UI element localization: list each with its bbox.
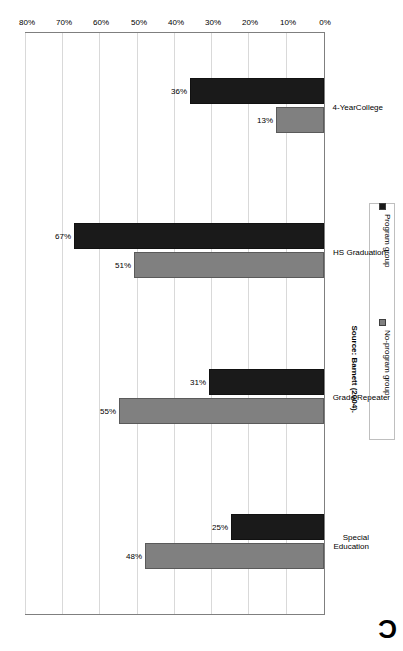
tick-label: 50% <box>131 18 147 27</box>
bar-row: 48% <box>26 543 324 569</box>
bar-value-label: 31% <box>190 377 206 386</box>
value-axis-ticks: 0%10%20%30%40%50%60%70%80% <box>25 13 325 29</box>
bar <box>134 252 324 278</box>
bar-row: 36% <box>26 78 324 104</box>
figure-rotation-wrapper: C No-program groupProgram group Source: … <box>0 0 403 651</box>
bar <box>276 107 324 133</box>
tick-label: 60% <box>93 18 109 27</box>
category-label: HS Graduation <box>333 247 386 256</box>
bar-value-label: 67% <box>55 232 71 241</box>
bar <box>231 514 324 540</box>
bar <box>209 369 324 395</box>
bar <box>119 398 324 424</box>
category-label: Grade Repeater <box>333 393 390 402</box>
tick-label: 70% <box>56 18 72 27</box>
bar <box>74 223 324 249</box>
bar-value-label: 51% <box>115 261 131 270</box>
bar <box>190 78 324 104</box>
bar-row: 13% <box>26 107 324 133</box>
tick-label: 20% <box>242 18 258 27</box>
bar-chart-figure: C No-program groupProgram group Source: … <box>0 0 403 651</box>
bar-value-label: 55% <box>100 406 116 415</box>
bar-value-label: 25% <box>212 522 228 531</box>
tick-label: 10% <box>280 18 296 27</box>
category-axis-labels: Special EducationGrade RepeaterHS Gradua… <box>329 32 403 615</box>
tick-label: 40% <box>168 18 184 27</box>
bar-row: 67% <box>26 223 324 249</box>
bar <box>145 543 324 569</box>
plot-area: 48%25%55%31%51%67%13%36% <box>25 32 325 615</box>
bar-value-label: 13% <box>257 116 273 125</box>
category-label: 4-YearCollege <box>333 102 383 111</box>
category-label: Special Education <box>333 533 369 551</box>
tick-label: 30% <box>205 18 221 27</box>
bar-row: 25% <box>26 514 324 540</box>
bar-row: 51% <box>26 252 324 278</box>
tick-label: 80% <box>19 18 35 27</box>
tick-label: 0% <box>319 18 331 27</box>
bar-value-label: 36% <box>171 87 187 96</box>
bar-row: 55% <box>26 398 324 424</box>
panel-letter: C <box>378 616 397 642</box>
bar-row: 31% <box>26 369 324 395</box>
bar-value-label: 48% <box>126 551 142 560</box>
